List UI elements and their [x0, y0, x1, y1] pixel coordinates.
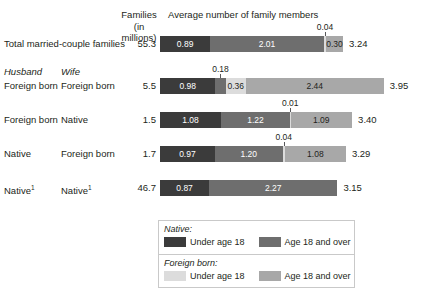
segment-callout-leader: [290, 108, 291, 112]
bar-segment-for-o: 1.09: [291, 112, 353, 128]
bar-segment-value: 1.22: [247, 115, 264, 125]
segment-callout-label: 0.18: [212, 64, 229, 74]
legend-item-native-over18[interactable]: Age 18 and over: [259, 237, 351, 247]
subheader-wife: Wife: [61, 66, 80, 77]
row-total-value: 3.29: [352, 146, 371, 162]
row-families-millions: 46.7: [112, 180, 156, 196]
bar-segment-nat-u: 0.97: [160, 146, 215, 162]
row-total-value: 3.95: [390, 78, 409, 94]
bar-segment-value: 1.20: [240, 149, 257, 159]
segment-callout-label: 0.04: [275, 132, 292, 142]
bar-segment-nat-u: 0.87: [160, 180, 209, 196]
bar-segment-value: 1.09: [313, 115, 330, 125]
bar-segment-nat-u: 0.98: [160, 78, 215, 94]
bar-segment-nat-u: 0.89: [160, 36, 210, 52]
header-families-line1: Families: [116, 9, 162, 21]
segment-callout-label: 0.04: [317, 22, 334, 32]
legend-label-native-under18: Under age 18: [190, 237, 245, 247]
row-families-millions: 1.7: [112, 146, 156, 162]
bar-segment-value: 0.36: [227, 81, 244, 91]
row-label-husband: Foreign born: [4, 78, 58, 94]
row-families-millions: 5.5: [112, 78, 156, 94]
legend-item-native-under18[interactable]: Under age 18: [164, 237, 245, 247]
row-label-husband: Native1: [4, 180, 35, 199]
footnote-marker: 1: [31, 184, 35, 191]
bar-segment-value: 0.30: [326, 39, 343, 49]
table-row: Foreign bornNative1.51.081.221.093.40: [0, 112, 433, 128]
legend-item-foreign-over18[interactable]: Age 18 and over: [259, 271, 351, 281]
bar-segment-for-o: 2.44: [246, 78, 384, 94]
row-label-husband: Native: [4, 146, 31, 162]
stacked-bar: 0.872.27: [160, 180, 337, 196]
bar-segment-nat-o: 1.20: [215, 146, 283, 162]
row-label-husband: Total married-couple families: [4, 36, 125, 52]
bar-segment-nat-u: 1.08: [160, 112, 221, 128]
legend: Native: Under age 18 Age 18 and over For…: [158, 220, 355, 288]
row-label-wife: Native: [61, 112, 88, 128]
legend-label-foreign-under18: Under age 18: [190, 271, 245, 281]
stacked-bar: 0.892.010.30: [160, 36, 343, 52]
footnote-marker: 1: [88, 184, 92, 191]
bar-segment-value: 2.01: [259, 39, 276, 49]
row-label-husband: Foreign born: [4, 112, 58, 128]
row-label-wife: Foreign born: [61, 78, 115, 94]
header-average-members: Average number of family members: [168, 9, 318, 21]
bar-segment-for-o: 1.08: [285, 146, 346, 162]
segment-callout-label: 0.01: [282, 98, 299, 108]
legend-foreign-title: Foreign born:: [164, 258, 354, 269]
bar-segment-for-u: 0.36: [226, 78, 246, 94]
row-label-wife: Native1: [61, 180, 92, 199]
stacked-bar: 0.971.201.08: [160, 146, 346, 162]
bar-segment-value: 0.98: [179, 81, 196, 91]
bar-segment-for-o: 0.30: [326, 36, 343, 52]
stacked-bar-chart: Families (in millions) Average number of…: [0, 0, 433, 295]
legend-swatch-native-over18: [259, 237, 281, 247]
legend-group-native: Native: Under age 18 Age 18 and over: [159, 221, 354, 254]
legend-swatch-native-under18: [164, 237, 186, 247]
bar-segment-value: 1.08: [182, 115, 199, 125]
stacked-bar: 0.980.362.44: [160, 78, 384, 94]
subheader-husband: Husband: [4, 66, 42, 77]
row-total-value: 3.15: [343, 180, 362, 196]
bar-segment-value: 0.87: [176, 183, 193, 193]
segment-callout-leader: [284, 142, 285, 146]
table-row: Foreign bornForeign born5.50.980.362.443…: [0, 78, 433, 94]
table-row: Total married-couple families55.30.892.0…: [0, 36, 433, 52]
bar-segment-nat-o: 1.22: [221, 112, 290, 128]
legend-native-title: Native:: [164, 224, 354, 235]
segment-callout-leader: [220, 74, 221, 78]
row-families-millions: 55.3: [112, 36, 156, 52]
bar-segment-value: 2.44: [307, 81, 324, 91]
row-total-value: 3.40: [358, 112, 377, 128]
table-row: Native1Native146.70.872.273.15: [0, 180, 433, 196]
legend-group-foreign-born: Foreign born: Under age 18 Age 18 and ov…: [159, 254, 354, 287]
legend-swatch-foreign-under18: [164, 271, 186, 281]
legend-label-foreign-over18: Age 18 and over: [285, 271, 351, 281]
bar-segment-value: 2.27: [265, 183, 282, 193]
legend-item-foreign-under18[interactable]: Under age 18: [164, 271, 245, 281]
segment-callout-leader: [325, 32, 326, 36]
stacked-bar: 1.081.221.09: [160, 112, 352, 128]
bar-segment-nat-o: [215, 78, 225, 94]
row-total-value: 3.24: [349, 36, 368, 52]
bar-segment-nat-o: 2.27: [209, 180, 337, 196]
bar-segment-value: 0.89: [177, 39, 194, 49]
row-label-wife: Foreign born: [61, 146, 115, 162]
bar-segment-value: 1.08: [307, 149, 324, 159]
bar-segment-nat-o: 2.01: [210, 36, 324, 52]
bar-segment-value: 0.97: [179, 149, 196, 159]
legend-label-native-over18: Age 18 and over: [285, 237, 351, 247]
row-families-millions: 1.5: [112, 112, 156, 128]
legend-swatch-foreign-over18: [259, 271, 281, 281]
table-row: NativeForeign born1.70.971.201.083.29: [0, 146, 433, 162]
